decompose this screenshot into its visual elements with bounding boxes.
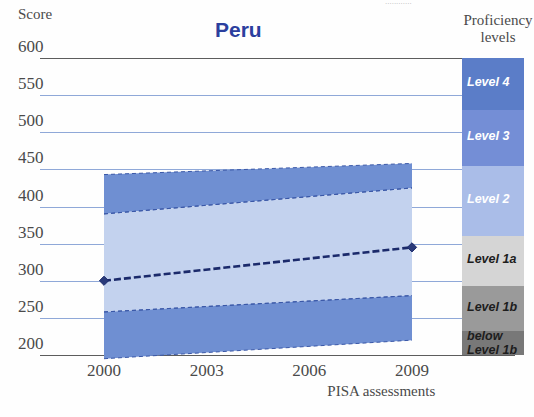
legend-swatch-level-2[interactable]: Level 2: [462, 166, 524, 236]
legend-label: Level 2: [467, 193, 509, 207]
legend-label: Level 1b: [467, 301, 517, 315]
x-tick-2006: 2006: [279, 361, 339, 381]
x-axis-caption: PISA assessments: [327, 383, 435, 400]
legend-swatch-level-1b[interactable]: Level 1b: [462, 286, 524, 331]
legend-label: Level 1a: [467, 253, 516, 267]
legend-swatch-level-1a[interactable]: Level 1a: [462, 236, 524, 286]
legend-swatch-level-3[interactable]: Level 3: [462, 110, 524, 166]
legend-swatch-below-level-1b[interactable]: belowLevel 1b: [462, 331, 524, 355]
x-tick-2009: 2009: [382, 361, 442, 381]
proficiency-legend: Level 4Level 3Level 2Level 1aLevel 1bbel…: [462, 58, 524, 355]
x-tick-2003: 2003: [177, 361, 237, 381]
legend-label: Level 4: [467, 76, 509, 90]
legend-label: belowLevel 1b: [467, 330, 517, 358]
legend-swatch-level-4[interactable]: Level 4: [462, 58, 524, 110]
x-tick-2000: 2000: [74, 361, 134, 381]
legend-label: Level 3: [467, 130, 509, 144]
